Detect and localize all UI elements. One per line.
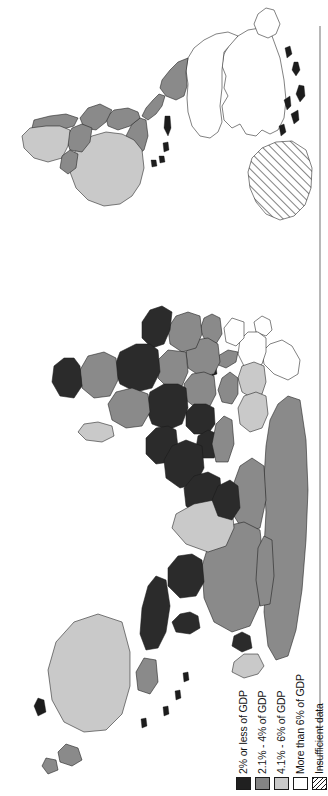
country-mali-niger[interactable] (158, 350, 188, 388)
country-chad-sudan[interactable] (146, 384, 188, 430)
map-figure: 2% or less of GDP 2.1% - 4% of GDP 4.1% … (0, 0, 328, 796)
legend-item-2[interactable]: 4.1% - 6% of GDP (272, 640, 291, 790)
legend-swatch-white-icon (293, 777, 308, 790)
legend-inner: 2% or less of GDP 2.1% - 4% of GDP 4.1% … (234, 640, 328, 790)
country-egypt[interactable] (186, 404, 215, 434)
map-legend[interactable]: 2% or less of GDP 2.1% - 4% of GDP 4.1% … (234, 640, 328, 790)
legend-swatch-light-gray-icon (274, 777, 289, 790)
legend-label-4: Insufficient data (314, 703, 325, 774)
legend-item-1[interactable]: 2.1% - 4% of GDP (253, 640, 272, 790)
legend-item-0[interactable]: 2% or less of GDP (234, 640, 253, 790)
legend-item-4[interactable]: Insufficient data (310, 640, 328, 790)
legend-swatch-medium-gray-icon (255, 777, 270, 790)
legend-item-3[interactable]: More than 6% of GDP (291, 640, 310, 790)
legend-swatch-hatched-icon (312, 777, 327, 790)
country-mongolia[interactable] (256, 536, 274, 606)
legend-label-0: 2% or less of GDP (238, 690, 249, 774)
legend-label-1: 2.1% - 4% of GDP (257, 691, 268, 774)
legend-swatch-dark-icon (236, 777, 251, 790)
legend-label-3: More than 6% of GDP (295, 674, 306, 774)
legend-label-2: 4.1% - 6% of GDP (276, 691, 287, 774)
